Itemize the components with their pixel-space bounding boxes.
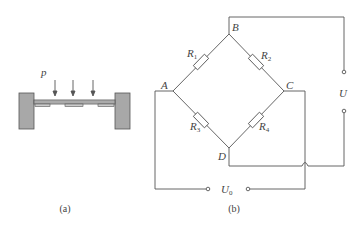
pressure-arrows-icon: [53, 80, 95, 96]
panel-b-bridge: [155, 17, 346, 191]
r4-label: R4: [258, 120, 270, 134]
figure: p (a): [0, 0, 359, 232]
node-b-label: B: [232, 21, 239, 33]
wire-d-supply: [229, 113, 344, 166]
left-support: [19, 93, 34, 129]
terminal-u0-left[interactable]: [206, 187, 210, 191]
right-support: [115, 93, 130, 129]
wire-a-output: [155, 91, 206, 189]
caption-b: (b): [228, 203, 240, 215]
r2-label: R2: [260, 49, 272, 63]
supply-voltage-label: U: [339, 87, 348, 99]
panel-a-diaphragm: p (a): [19, 66, 130, 215]
terminal-u-bottom[interactable]: [342, 109, 346, 113]
wire-c-output: [250, 91, 305, 189]
node-a-label: A: [160, 79, 168, 91]
pressure-label: p: [40, 66, 47, 78]
terminal-u-top[interactable]: [342, 70, 346, 74]
strain-gauge-2: [65, 104, 83, 107]
wire-b-supply: [229, 17, 344, 70]
strain-gauge-3: [98, 104, 114, 107]
node-c-label: C: [286, 79, 294, 91]
caption-a: (a): [59, 203, 70, 215]
node-d-label: D: [217, 150, 226, 162]
r1-label: R1: [186, 47, 198, 61]
output-voltage-label: U0: [221, 183, 233, 197]
strain-gauge-1: [35, 104, 50, 107]
terminal-u0-right[interactable]: [246, 187, 250, 191]
